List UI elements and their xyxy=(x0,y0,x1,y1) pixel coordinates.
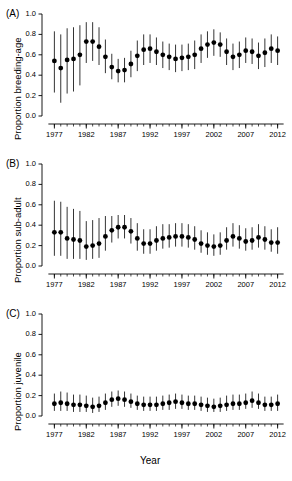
svg-text:1.0: 1.0 xyxy=(26,9,36,18)
svg-text:2002: 2002 xyxy=(205,280,222,289)
svg-text:0.0: 0.0 xyxy=(26,411,36,420)
svg-text:1992: 1992 xyxy=(142,430,159,439)
svg-text:1997: 1997 xyxy=(174,430,191,439)
svg-text:1977: 1977 xyxy=(46,430,63,439)
svg-text:0.2: 0.2 xyxy=(26,91,36,100)
svg-text:1977: 1977 xyxy=(46,280,63,289)
svg-text:2002: 2002 xyxy=(205,130,222,139)
svg-text:0.4: 0.4 xyxy=(26,70,36,79)
svg-text:1997: 1997 xyxy=(174,280,191,289)
svg-text:0.0: 0.0 xyxy=(26,261,36,270)
svg-text:0.4: 0.4 xyxy=(26,220,36,229)
svg-text:2002: 2002 xyxy=(205,430,222,439)
svg-text:2012: 2012 xyxy=(269,430,286,439)
svg-text:0.8: 0.8 xyxy=(26,29,36,38)
svg-text:1992: 1992 xyxy=(142,280,159,289)
panel-a: (A) Proportion breeding-age 0.00.20.40.6… xyxy=(0,0,292,150)
svg-text:0.8: 0.8 xyxy=(26,179,36,188)
x-axis-label: Year xyxy=(140,455,160,466)
svg-text:0.6: 0.6 xyxy=(26,50,36,59)
svg-text:1982: 1982 xyxy=(78,430,95,439)
svg-text:1987: 1987 xyxy=(110,430,127,439)
svg-text:0.8: 0.8 xyxy=(26,329,36,338)
panel-b-plot: 0.00.20.40.60.81.01977198219871992199720… xyxy=(0,150,292,300)
svg-text:1987: 1987 xyxy=(110,130,127,139)
svg-text:2007: 2007 xyxy=(237,430,254,439)
figure-container: (A) Proportion breeding-age 0.00.20.40.6… xyxy=(0,0,292,481)
svg-text:2007: 2007 xyxy=(237,130,254,139)
panel-c-plot: 0.00.20.40.60.81.01977198219871992199720… xyxy=(0,300,292,450)
svg-text:1997: 1997 xyxy=(174,130,191,139)
panel-a-plot: 0.00.20.40.60.81.01977198219871992199720… xyxy=(0,0,292,150)
panel-b: (B) Proportion sub-adult 0.00.20.40.60.8… xyxy=(0,150,292,300)
svg-text:0.0: 0.0 xyxy=(26,111,36,120)
svg-text:2012: 2012 xyxy=(269,280,286,289)
svg-text:1982: 1982 xyxy=(78,130,95,139)
svg-text:0.6: 0.6 xyxy=(26,350,36,359)
svg-text:1982: 1982 xyxy=(78,280,95,289)
svg-text:1.0: 1.0 xyxy=(26,159,36,168)
svg-text:1987: 1987 xyxy=(110,280,127,289)
svg-text:0.2: 0.2 xyxy=(26,391,36,400)
svg-text:1.0: 1.0 xyxy=(26,309,36,318)
svg-text:0.2: 0.2 xyxy=(26,241,36,250)
svg-text:2012: 2012 xyxy=(269,130,286,139)
svg-text:1992: 1992 xyxy=(142,130,159,139)
panel-c: (C) Proportion juvenile 0.00.20.40.60.81… xyxy=(0,300,292,450)
svg-text:1977: 1977 xyxy=(46,130,63,139)
svg-text:0.6: 0.6 xyxy=(26,200,36,209)
svg-text:0.4: 0.4 xyxy=(26,370,36,379)
svg-text:2007: 2007 xyxy=(237,280,254,289)
